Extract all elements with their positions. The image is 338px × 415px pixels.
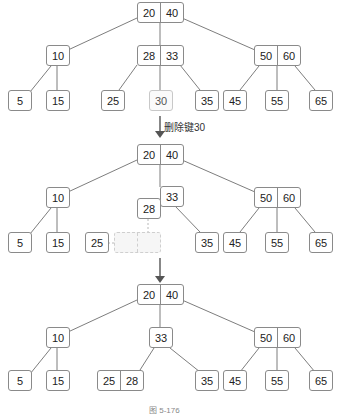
stage2-node-33: 33 <box>160 186 184 207</box>
stage3-leaf: 45 <box>223 370 247 391</box>
key: 25 <box>86 233 108 252</box>
key: 30 <box>150 91 172 110</box>
key: 35 <box>196 233 218 252</box>
stage2-leaf: 35 <box>195 232 219 253</box>
key: 28 <box>138 199 160 218</box>
key: 35 <box>196 91 218 110</box>
key: 40 <box>160 285 183 304</box>
key: 5 <box>9 233 31 252</box>
stage2-leaf: 5 <box>8 232 32 253</box>
key: 33 <box>160 46 183 65</box>
stage2-node-10: 10 <box>46 187 70 208</box>
key: 65 <box>310 371 332 390</box>
stage2-leaf: 65 <box>309 232 333 253</box>
key: 35 <box>196 371 218 390</box>
key: 10 <box>47 46 69 65</box>
key: 20 <box>138 285 160 304</box>
stage2-leaf: 45 <box>223 232 247 253</box>
stage1-leaf: 15 <box>46 90 70 111</box>
step-label-delete: 删除键30 <box>164 119 205 134</box>
stage1-node-28-33: 28 33 <box>137 45 184 66</box>
key: 65 <box>310 91 332 110</box>
key: 60 <box>277 46 300 65</box>
key: 60 <box>277 328 300 347</box>
empty-slot <box>137 233 160 252</box>
figure-caption: 图 5-176 <box>149 404 180 415</box>
key: 28 <box>138 46 160 65</box>
key: 40 <box>160 3 183 22</box>
stage2-empty-merge-slot <box>114 232 161 253</box>
stage3-node-10: 10 <box>46 327 70 348</box>
stage3-leaf: 55 <box>265 370 289 391</box>
key: 5 <box>9 371 31 390</box>
stage1-root-node: 20 40 <box>137 2 184 23</box>
key: 50 <box>255 328 277 347</box>
stage1-node-10: 10 <box>46 45 70 66</box>
key: 10 <box>47 328 69 347</box>
key: 55 <box>266 91 288 110</box>
key: 33 <box>161 187 183 206</box>
key: 55 <box>266 233 288 252</box>
stage1-leaf-to-delete: 30 <box>149 90 173 111</box>
stage2-borrowed-28: 28 <box>137 198 161 219</box>
stage1-leaf: 25 <box>101 90 125 111</box>
arrow-down-icon <box>155 276 165 283</box>
key: 50 <box>255 46 277 65</box>
stage3-leaf: 15 <box>46 370 70 391</box>
stage3-leaf: 65 <box>309 370 333 391</box>
stage1-leaf: 65 <box>309 90 333 111</box>
key: 25 <box>98 371 120 390</box>
key: 50 <box>255 188 277 207</box>
key: 25 <box>102 91 124 110</box>
stage3-node-33: 33 <box>149 327 173 348</box>
stage2-leaf: 15 <box>46 232 70 253</box>
key: 15 <box>47 371 69 390</box>
stage3-node-50-60: 50 60 <box>254 327 301 348</box>
stage3-leaf: 5 <box>8 370 32 391</box>
stage3-leaf-merged: 25 28 <box>97 370 144 391</box>
key: 45 <box>224 91 246 110</box>
key: 55 <box>266 371 288 390</box>
stage1-leaf: 55 <box>265 90 289 111</box>
key: 45 <box>224 371 246 390</box>
stage2-leaf: 55 <box>265 232 289 253</box>
key: 45 <box>224 233 246 252</box>
key: 33 <box>150 328 172 347</box>
stage2-node-50-60: 50 60 <box>254 187 301 208</box>
key: 10 <box>47 188 69 207</box>
stage1-leaf: 5 <box>8 90 32 111</box>
empty-slot <box>115 233 137 252</box>
key: 15 <box>47 233 69 252</box>
stage1-leaf: 35 <box>195 90 219 111</box>
stage1-node-50-60: 50 60 <box>254 45 301 66</box>
key: 20 <box>138 145 160 164</box>
stage3-root-node: 20 40 <box>137 284 184 305</box>
key: 28 <box>120 371 143 390</box>
stage2-leaf: 25 <box>85 232 109 253</box>
key: 15 <box>47 91 69 110</box>
stage2-root-node: 20 40 <box>137 144 184 165</box>
key: 60 <box>277 188 300 207</box>
key: 20 <box>138 3 160 22</box>
key: 5 <box>9 91 31 110</box>
key: 65 <box>310 233 332 252</box>
stage1-leaf: 45 <box>223 90 247 111</box>
stage3-leaf: 35 <box>195 370 219 391</box>
key: 40 <box>160 145 183 164</box>
